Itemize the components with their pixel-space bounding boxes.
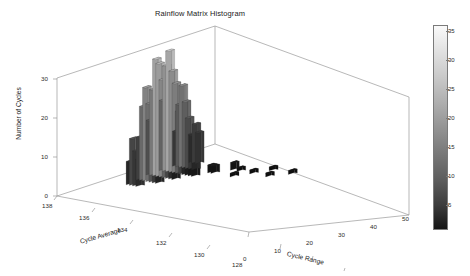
z-tick-30: 30 <box>34 75 48 82</box>
cycle-range-tick-20: 20 <box>306 239 313 246</box>
histogram-bar <box>269 165 278 171</box>
histogram-bar <box>230 171 239 177</box>
z-tick-0: 0 <box>34 192 48 199</box>
colorbar <box>433 25 448 230</box>
cycle-range-tick-0: 0 <box>243 255 246 262</box>
histogram-bar <box>211 164 220 174</box>
histogram-bar <box>250 168 259 174</box>
cycle-range-tick-30: 30 <box>338 231 345 238</box>
histogram-bar <box>195 131 204 164</box>
z-tick-10: 10 <box>34 153 48 160</box>
z-tick-20: 20 <box>34 114 48 121</box>
cycle-average-tick-136: 136 <box>79 214 89 221</box>
cycle-average-tick-130: 130 <box>194 251 204 258</box>
bar-field <box>0 0 470 276</box>
colorbar-label-30: 30 <box>448 57 455 63</box>
colorbar-label-5: 5 <box>448 202 451 208</box>
colorbar-label-10: 10 <box>448 173 455 179</box>
cycle-range-tick-50: 50 <box>402 215 409 222</box>
z-axis-label: Number of Cycles <box>15 79 22 149</box>
cycle-range-tick-10: 10 <box>274 247 281 254</box>
cycle-average-tick-138: 138 <box>42 202 52 209</box>
cycle-range-tick-40: 40 <box>370 223 377 230</box>
figure-canvas: Rainflow Matrix Histogram <box>0 0 470 276</box>
cycle-average-tick-128: 128 <box>232 261 242 268</box>
histogram-bar <box>266 171 275 177</box>
cycle-average-tick-132: 132 <box>156 239 166 246</box>
colorbar-label-15: 15 <box>448 144 455 150</box>
histogram-bar <box>288 169 297 175</box>
colorbar-label-20: 20 <box>448 115 455 121</box>
colorbar-label-25: 25 <box>448 86 455 92</box>
colorbar-label-35: 35 <box>448 28 455 34</box>
